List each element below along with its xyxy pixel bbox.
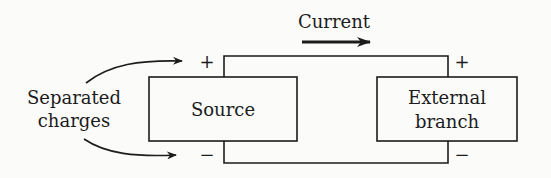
current-label: Current — [298, 11, 371, 32]
external-label-line1: External — [408, 87, 486, 108]
separated-label-line1: Separated — [27, 87, 121, 108]
external-label-line2: branch — [415, 111, 480, 132]
circuit-diagram: Current Source External branch + − + − S… — [0, 0, 551, 178]
external-minus-sign: − — [454, 144, 469, 165]
bottom-wire — [224, 141, 448, 163]
source-label: Source — [191, 99, 255, 120]
plus-charge-pointer-arrow — [86, 61, 182, 83]
separated-label-line2: charges — [38, 110, 110, 131]
top-wire — [224, 56, 448, 77]
source-plus-sign: + — [199, 51, 214, 72]
external-plus-sign: + — [454, 51, 469, 72]
source-minus-sign: − — [199, 144, 214, 165]
diagram-svg: Current Source External branch + − + − S… — [0, 0, 551, 178]
